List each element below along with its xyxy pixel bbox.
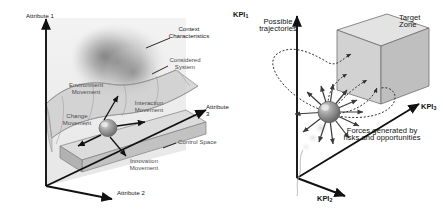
- axis-label-kpi-2-sub: 2: [329, 197, 332, 203]
- label-target-zone: Target Zone: [399, 14, 420, 28]
- axis-label-kpi-3: KPI3: [421, 96, 437, 113]
- sphere-trail: [297, 110, 338, 196]
- right-panel-kpi-space: KPI1 KPI2 KPI3 Possible trajectories Tar…: [221, 0, 443, 214]
- axis-attribute-2: [46, 186, 112, 199]
- axis-label-attribute-1: Attribute 1: [26, 13, 54, 20]
- axis-label-kpi-2-text: KPI: [317, 194, 329, 203]
- axis-label-kpi-1-text: KPI: [233, 10, 245, 19]
- label-considered-system: Considered System: [160, 57, 210, 71]
- label-environment-movement: Environment Movement: [58, 82, 114, 96]
- label-forces-caption: Forces generated by risks and opportunit…: [325, 127, 439, 141]
- system-sphere: [99, 119, 117, 136]
- figure-root: Attribute 1 Attribute 2 Attribute 3 Cont…: [0, 0, 443, 214]
- label-possible-trajectories: Possible trajectories: [245, 18, 311, 32]
- label-change-movement: Change Movement: [54, 113, 100, 127]
- axis-label-kpi-3-text: KPI: [421, 102, 433, 111]
- current-state-sphere: [318, 101, 340, 122]
- axis-label-attribute-2: Attribute 2: [117, 190, 145, 197]
- label-context-characteristics: Context Characteristics: [160, 26, 218, 40]
- label-innovation-movement: Innovation Movement: [119, 158, 169, 172]
- axis-label-kpi-2: KPI2: [317, 188, 333, 205]
- axis-label-kpi-3-sub: 3: [433, 105, 436, 111]
- left-panel-control-space: Attribute 1 Attribute 2 Attribute 3 Cont…: [0, 0, 222, 214]
- label-control-space: Control Space: [178, 139, 217, 146]
- label-interaction-movement: Interaction Movement: [124, 100, 174, 114]
